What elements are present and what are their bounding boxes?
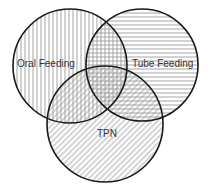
- venn-diagram-svg: Oral Feeding Tube Feeding TPN: [0, 0, 211, 193]
- tube-feeding-label: Tube Feeding: [132, 58, 193, 69]
- tpn-label: TPN: [97, 128, 117, 139]
- venn-diagram: Oral Feeding Tube Feeding TPN: [0, 0, 211, 193]
- oral-feeding-label: Oral Feeding: [17, 58, 75, 69]
